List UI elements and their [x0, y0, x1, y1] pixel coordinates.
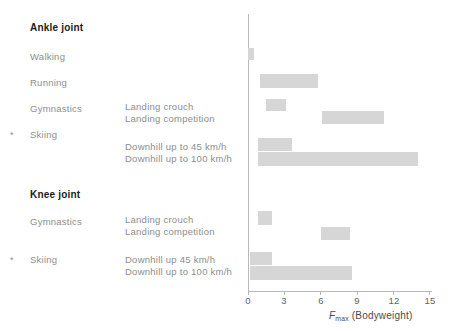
- x-tick-label-0: 0: [245, 295, 250, 306]
- x-axis-title-unit: (Bodyweight): [349, 310, 413, 321]
- condition-knee-gym-landing-competition: Landing competition: [125, 226, 215, 237]
- condition-ankle-gym-landing-competition: Landing competition: [125, 113, 215, 124]
- row-label-ankle-walking: Walking: [30, 51, 65, 62]
- row-label-knee-gymnastics: Gymnastics: [30, 216, 82, 227]
- chart-figure: Ankle joint Walking Running Gymnastics *…: [0, 0, 458, 331]
- bar-knee-joint-gymnastics-landing-crouch: [258, 211, 273, 225]
- x-axis-title: Fmax (Bodyweight): [329, 310, 413, 321]
- row-label-knee-skiing: Skiing: [30, 254, 57, 265]
- row-label-ankle-skiing: Skiing: [30, 129, 57, 140]
- bar-ankle-joint-cont-downhill-up-to-100-km-h: [258, 152, 418, 166]
- bar-ankle-joint-cont-landing-competition: [322, 111, 384, 124]
- condition-knee-ski-downhill-45: Downhill up 45 km/h: [125, 254, 215, 265]
- footnote-star-knee-skiing: *: [10, 256, 14, 265]
- condition-ankle-ski-downhill-45: Downhill up to 45 km/h: [125, 141, 227, 152]
- condition-knee-ski-downhill-100: Downhill up to 100 km/h: [125, 266, 232, 277]
- bar-knee-joint-skiing-downhill-up-45-km-h: [250, 252, 272, 265]
- bar-ankle-joint-running-value: [260, 74, 318, 88]
- x-tick-label-6: 6: [318, 295, 323, 306]
- bar-knee-joint-cont-landing-competition: [321, 227, 350, 240]
- bar-knee-joint-cont-downhill-up-to-100-km-h: [250, 266, 352, 280]
- x-tick-label-15: 15: [425, 295, 436, 306]
- x-tick-label-9: 9: [354, 295, 359, 306]
- x-tick-label-3: 3: [281, 295, 286, 306]
- footnote-star-ankle-skiing: *: [10, 131, 14, 140]
- row-label-ankle-running: Running: [30, 77, 67, 88]
- bar-ankle-joint-gymnastics-landing-crouch: [266, 99, 285, 111]
- group-heading-ankle-joint: Ankle joint: [30, 22, 83, 33]
- x-tick-label-12: 12: [389, 295, 400, 306]
- x-axis-title-subscript: max: [335, 315, 348, 322]
- bar-ankle-joint-skiing-downhill-up-to-45-km-h: [258, 138, 292, 151]
- bar-ankle-joint-walking-value: [248, 48, 254, 60]
- x-axis-line: [248, 291, 432, 292]
- condition-knee-gym-landing-crouch: Landing crouch: [125, 214, 193, 225]
- group-heading-knee-joint: Knee joint: [30, 189, 80, 200]
- condition-ankle-gym-landing-crouch: Landing crouch: [125, 101, 193, 112]
- row-label-ankle-gymnastics: Gymnastics: [30, 103, 82, 114]
- condition-ankle-ski-downhill-100: Downhill up to 100 km/h: [125, 153, 232, 164]
